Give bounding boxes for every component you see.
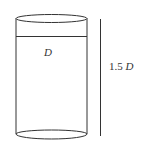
diameter-label: D [43, 46, 52, 58]
cylinder-top-ellipse [16, 15, 87, 23]
height-label: 1.5 D [109, 60, 134, 72]
cylinder-diagram: D 1.5 D [0, 0, 143, 149]
cylinder-bottom-front-arc [16, 134, 87, 139]
cylinder-bottom-back-arc [16, 130, 87, 134]
